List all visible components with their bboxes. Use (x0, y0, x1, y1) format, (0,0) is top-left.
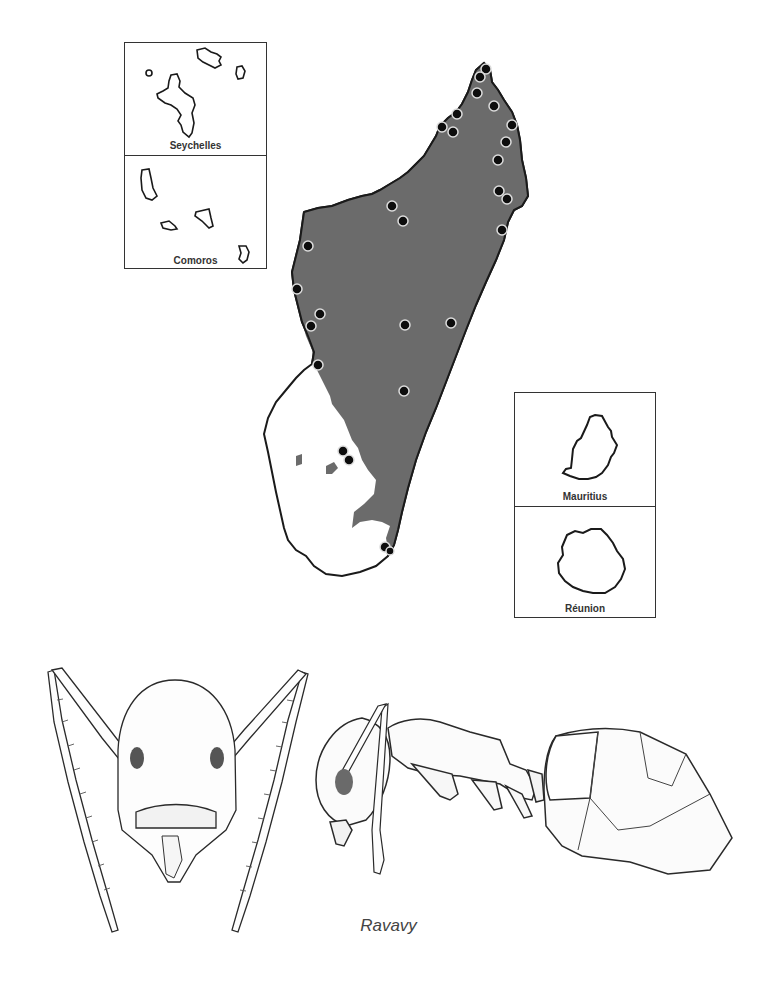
range-isolated-patch (296, 454, 302, 466)
left-eye-icon (130, 747, 144, 769)
head-frontal-illustration (40, 660, 320, 940)
lateral-eye-icon (335, 769, 353, 795)
madagascar-distribution-map (0, 0, 777, 600)
body-lateral-illustration (300, 670, 740, 910)
right-eye-icon (210, 747, 224, 769)
genus-caption: Ravavy (0, 916, 777, 936)
inset-label-reunion: Réunion (515, 603, 655, 614)
